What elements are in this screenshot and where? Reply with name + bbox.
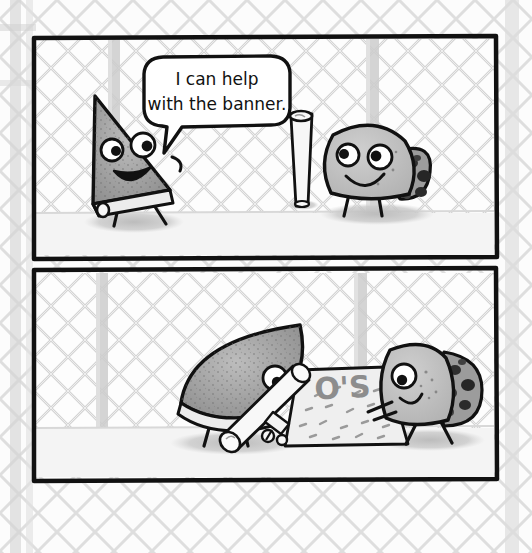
comic-strip: I can help with the banner. [0, 0, 532, 553]
panel-2-scene: O'S [36, 273, 494, 478]
banner-visible-text: O'S [313, 369, 371, 407]
panel-2: O'S [0, 0, 532, 553]
cookie-eye [392, 364, 416, 388]
